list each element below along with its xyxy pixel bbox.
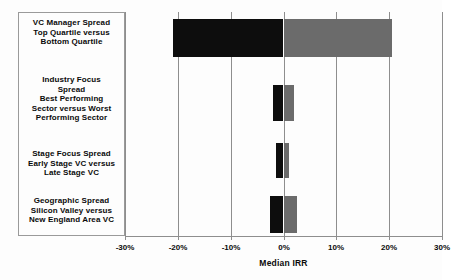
category-line: New England Area VC (19, 215, 124, 225)
x-axis-tick-label: 30% (422, 243, 455, 252)
plot-area (125, 12, 442, 236)
x-axis-tick-mark (389, 236, 390, 240)
x-axis-tick-mark (442, 236, 443, 240)
category-label-stage-focus-spread: Stage Focus Spread Early Stage VC versus… (19, 149, 124, 178)
category-line: Industry Focus (19, 75, 124, 85)
gridline-30 (442, 12, 443, 236)
bar-segment-positive-1 (284, 85, 295, 121)
category-line: VC Manager Spread (19, 18, 124, 28)
bar-segment-negative-0 (173, 19, 284, 57)
category-line: Bottom Quartile (19, 37, 124, 47)
bar-segment-negative-3 (270, 196, 283, 233)
gridline-neg30 (125, 12, 126, 236)
category-line: Silicon Valley versus (19, 206, 124, 216)
bar-segment-negative-1 (273, 85, 284, 121)
category-line: Early Stage VC versus (19, 159, 124, 169)
category-line: Geographic Spread (19, 196, 124, 206)
category-label-industry-focus-spread: Industry Focus Spread Best Performing Se… (19, 75, 124, 123)
x-axis-tick-mark (231, 236, 232, 240)
x-axis-tick-label: 20% (369, 243, 409, 252)
category-line: Late Stage VC (19, 168, 124, 178)
x-axis-tick-label: -30% (105, 243, 145, 252)
x-axis-title: Median IRR (125, 258, 442, 268)
category-line: Performing Sector (19, 113, 124, 123)
category-label-vc-manager-spread: VC Manager Spread Top Quartile versus Bo… (19, 18, 124, 47)
x-axis-tick-mark (178, 236, 179, 240)
x-axis-tick-mark (336, 236, 337, 240)
category-line: Stage Focus Spread (19, 149, 124, 159)
x-axis-tick-label: -10% (211, 243, 251, 252)
bar-segment-positive-2 (284, 143, 289, 178)
category-line: Top Quartile versus (19, 28, 124, 38)
x-axis-tick-mark (125, 236, 126, 240)
x-axis-tick-label: 0% (264, 243, 304, 252)
x-axis-tick-mark (284, 236, 285, 240)
bar-segment-negative-2 (276, 143, 284, 178)
category-line: Spread (19, 85, 124, 95)
bar-segment-positive-0 (284, 19, 392, 57)
category-label-geographic-spread: Geographic Spread Silicon Valley versus … (19, 196, 124, 225)
x-axis-tick-label: 10% (316, 243, 356, 252)
category-line: Sector versus Worst (19, 104, 124, 114)
category-line: Best Performing (19, 94, 124, 104)
x-axis-tick-label: -20% (158, 243, 198, 252)
category-label-panel: VC Manager Spread Top Quartile versus Bo… (18, 12, 125, 236)
bar-segment-positive-3 (284, 196, 297, 233)
